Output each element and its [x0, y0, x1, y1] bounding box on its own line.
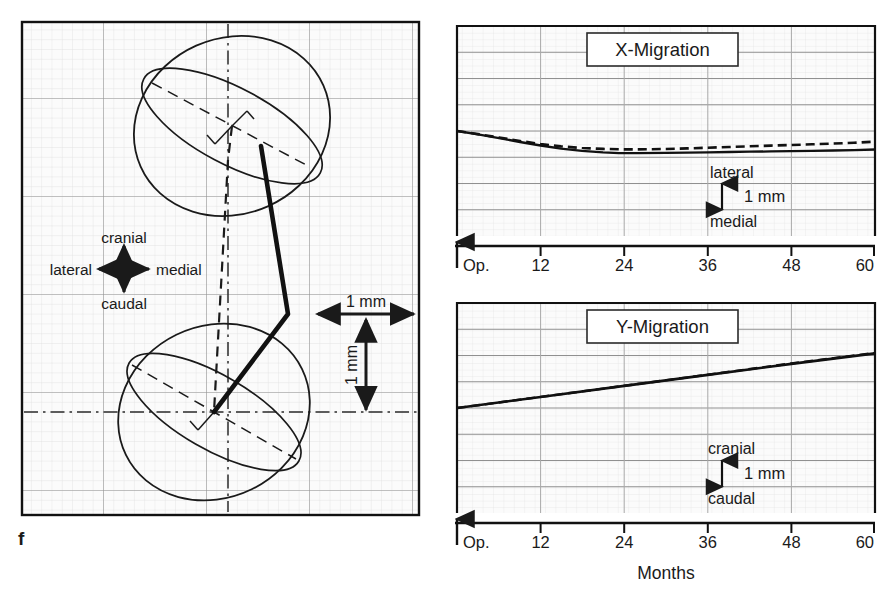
y-tick-label-op: Op.: [463, 533, 490, 551]
x-migration-title: X-Migration: [615, 39, 710, 60]
migration-diagram-svg: cranial caudal lateral medial 1 mm 1 mm: [0, 0, 441, 591]
x-tick-label-12: 12: [531, 256, 549, 274]
y-tick-label-24: 24: [615, 533, 633, 551]
y-migration-title: Y-Migration: [616, 316, 709, 337]
figure-panel-label: f: [18, 528, 24, 550]
y-migration-svg: Op. 12 24 36 48 60 Y-Migration cranial 1…: [441, 291, 882, 591]
x-tick-label-36: 36: [699, 256, 717, 274]
x-migration-panel: Op. 12 24 36 48 60 X-Migration lateral 1…: [441, 0, 882, 291]
x-tick-label-60: 60: [856, 256, 874, 274]
y-migration-tick-labels: Op. 12 24 36 48 60: [463, 533, 874, 551]
x-migration-title-box: X-Migration: [587, 33, 738, 66]
compass-label-caudal: caudal: [101, 295, 147, 312]
compass-label-cranial: cranial: [101, 229, 147, 246]
x-tick-label-op: Op.: [463, 256, 490, 274]
y-tick-label-60: 60: [856, 533, 874, 551]
x-migration-svg: Op. 12 24 36 48 60 X-Migration lateral 1…: [441, 0, 882, 291]
y-tick-label-36: 36: [699, 533, 717, 551]
y-tick-label-12: 12: [531, 533, 549, 551]
y-tick-label-48: 48: [782, 533, 800, 551]
compass-label-lateral: lateral: [50, 261, 92, 278]
x-direction-label-positive: lateral: [710, 164, 754, 181]
scale-bar-horizontal-label: 1 mm: [346, 293, 386, 310]
y-migration-xlabel: Months: [637, 563, 695, 583]
y-migration-title-box: Y-Migration: [587, 310, 738, 343]
x-tick-label-24: 24: [615, 256, 633, 274]
y-migration-panel: Op. 12 24 36 48 60 Y-Migration cranial 1…: [441, 291, 882, 591]
y-direction-label-negative: caudal: [708, 490, 755, 507]
x-migration-tick-labels: Op. 12 24 36 48 60: [463, 256, 874, 274]
migration-diagram-panel: cranial caudal lateral medial 1 mm 1 mm …: [0, 0, 441, 591]
x-direction-label-negative: medial: [710, 213, 757, 230]
x-migration-axis: [455, 242, 875, 268]
scale-bar-vertical-label: 1 mm: [343, 345, 360, 385]
x-scale-bar-label: 1 mm: [744, 187, 785, 205]
y-migration-axis: [455, 519, 875, 545]
compass-label-medial: medial: [156, 261, 202, 278]
y-direction-label-positive: cranial: [708, 440, 755, 457]
y-scale-bar-label: 1 mm: [744, 464, 785, 482]
x-tick-label-48: 48: [782, 256, 800, 274]
